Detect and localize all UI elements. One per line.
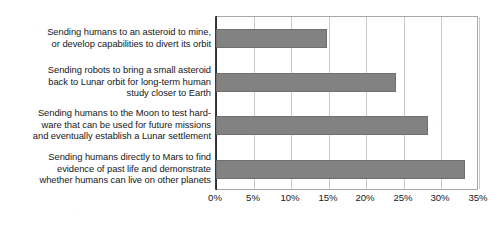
category-label-line: Sending robots to bring a small asteroid — [0, 64, 211, 76]
x-tick-label-5: 5% — [246, 192, 260, 203]
bar-4 — [216, 160, 465, 179]
plot-area — [215, 16, 478, 190]
category-label-line: or develop capabilities to divert its or… — [0, 38, 211, 50]
gridline-35 — [479, 17, 480, 189]
category-label-4: Sending humans directly to Mars to finde… — [0, 151, 211, 186]
category-label-line: ware that can be used for future mission… — [0, 119, 211, 131]
x-axis-tick-labels: 0%5%10%15%20%25%30%35% — [215, 192, 478, 208]
x-tick-label-35: 35% — [468, 192, 487, 203]
bar-2 — [216, 73, 396, 92]
bar-chart: Sending humans to an asteroid to mine,or… — [0, 0, 499, 228]
category-label-line: evidence of past life and demonstrate — [0, 163, 211, 175]
chart-title — [150, 0, 450, 2]
bar-1 — [216, 29, 327, 48]
x-tick-label-30: 30% — [430, 192, 449, 203]
category-label-1: Sending humans to an asteroid to mine,or… — [0, 26, 211, 49]
x-tick-label-20: 20% — [355, 192, 374, 203]
x-tick-label-25: 25% — [393, 192, 412, 203]
bar-3 — [216, 116, 428, 135]
category-label-line: study closer to Earth — [0, 87, 211, 99]
category-label-3: Sending humans to the Moon to test hard-… — [0, 107, 211, 142]
category-label-line: Sending humans to an asteroid to mine, — [0, 26, 211, 38]
category-label-2: Sending robots to bring a small asteroid… — [0, 64, 211, 99]
x-tick-label-10: 10% — [280, 192, 299, 203]
category-label-line: Sending humans directly to Mars to find — [0, 151, 211, 163]
category-axis-labels: Sending humans to an asteroid to mine,or… — [0, 16, 213, 190]
category-label-line: Sending humans to the Moon to test hard- — [0, 107, 211, 119]
category-label-line: back to Lunar orbit for long-term human — [0, 76, 211, 88]
x-tick-label-15: 15% — [318, 192, 337, 203]
category-label-line: and eventually establish a Lunar settlem… — [0, 130, 211, 142]
x-tick-label-0: 0% — [208, 192, 222, 203]
category-label-line: whether humans can live on other planets — [0, 174, 211, 186]
